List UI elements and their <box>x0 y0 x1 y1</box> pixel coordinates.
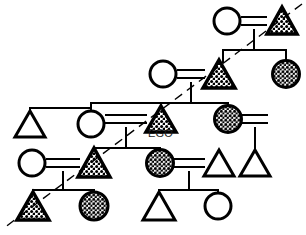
node-circle-female-n5 <box>273 61 300 88</box>
kinship-diagram-canvas: EGO <box>0 0 306 235</box>
node-triangle-male-n2 <box>267 7 297 34</box>
kinship-diagram: EGO <box>0 0 306 235</box>
node-circle-female-n10 <box>19 150 45 176</box>
node-circle-female-n7 <box>78 111 104 137</box>
node-circle-female-n3 <box>150 61 176 87</box>
node-circle-female-n1 <box>214 8 240 34</box>
node-circle-female-n16 <box>80 192 108 220</box>
node-triangle-male-n4 <box>203 60 235 88</box>
node-triangle-male-n13 <box>204 150 234 176</box>
node-triangle-male-n6 <box>15 111 45 137</box>
marriage-double-lines <box>46 17 268 167</box>
ego-label: EGO <box>148 127 173 139</box>
node-circle-female-n18 <box>205 193 231 219</box>
node-triangle-male-n14 <box>240 150 270 176</box>
node-circle-female-n12 <box>147 150 174 177</box>
node-circle-female-n9 <box>215 106 242 133</box>
node-triangle-male-n17 <box>143 192 175 220</box>
